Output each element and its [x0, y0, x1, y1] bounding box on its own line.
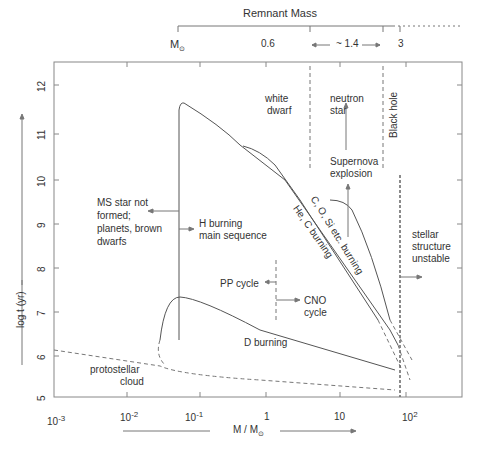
y-tick-7: 7 [36, 310, 47, 316]
label-black-hole: Black hole [388, 92, 399, 138]
y-tick-12: 12 [36, 81, 47, 92]
label-cno-cycle: CNOcycle [304, 295, 327, 319]
label-h-burning: H burningmain sequence [199, 218, 267, 242]
label-stellar-unstable: stellarstructureunstable [412, 229, 451, 265]
y-axis-label: log t (yr) [15, 291, 26, 328]
x-tick-0: 10-3 [47, 414, 65, 427]
annotation-arrows [148, 103, 422, 302]
y-tick-9: 9 [36, 222, 47, 228]
y-tick-11: 11 [36, 130, 47, 140]
remnant-mass-scale [178, 26, 462, 47]
x-tick-4: 10 [334, 411, 345, 422]
label-ms-not-formed: MS star notformed;planets, browndwarfs [97, 196, 162, 248]
label-neutron-star: neutronstar [330, 93, 364, 117]
remnant-value-2: 3 [398, 38, 404, 50]
y-tick-8: 8 [36, 266, 47, 272]
remnant-mass-title: Remnant Mass [243, 7, 317, 19]
x-axis-label: M / M⊙ [233, 424, 264, 440]
x-tick-2: 10-1 [185, 410, 203, 423]
remnant-value-1: ~ 1.4 [336, 38, 359, 50]
burning-curves [160, 103, 398, 370]
label-supernova: Supernovaexplosion [330, 156, 378, 180]
msun-label: M⊙ [170, 38, 185, 55]
y-tick-10: 10 [36, 176, 47, 187]
label-protostellar: protostellarcloud [90, 364, 144, 388]
x-tick-1: 10-2 [120, 410, 138, 423]
label-d-burning: D burning [244, 337, 287, 349]
remnant-value-0: 0.6 [261, 38, 275, 50]
label-white-dwarf: whitedwarf [265, 93, 291, 117]
y-tick-6: 6 [36, 354, 47, 360]
axis-arrows [20, 114, 356, 433]
y-tick-5: 5 [36, 395, 47, 401]
x-tick-5: 102 [402, 410, 418, 423]
x-tick-3: 1 [264, 411, 270, 422]
label-pp-cycle: PP cycle [220, 278, 259, 290]
